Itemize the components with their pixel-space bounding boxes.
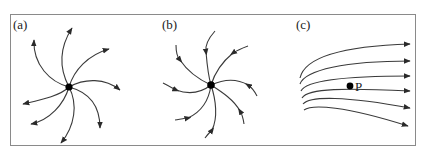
panel-c: (c) P bbox=[296, 17, 410, 126]
panel-b-label: (b) bbox=[162, 17, 177, 32]
point-p bbox=[347, 83, 354, 90]
panel-c-label: (c) bbox=[296, 17, 310, 32]
panel-b: (b) bbox=[162, 17, 257, 138]
figure-canvas: (a) (b) bbox=[0, 0, 425, 155]
panel-a-label: (a) bbox=[13, 17, 27, 32]
panel-a-source-point bbox=[65, 83, 72, 90]
panel-a: (a) bbox=[13, 17, 120, 143]
streamline-figure: (a) (b) bbox=[0, 0, 425, 155]
panel-b-sink-point bbox=[207, 81, 215, 89]
point-p-label: P bbox=[355, 79, 362, 94]
